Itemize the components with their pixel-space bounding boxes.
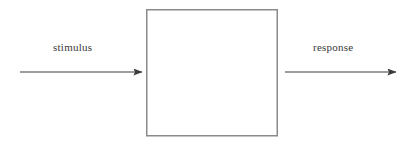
diagram-canvas: stimulus response: [0, 0, 411, 144]
black-box-rect: [147, 10, 278, 136]
diagram-graphics: [0, 0, 411, 144]
input-label: stimulus: [53, 42, 92, 53]
output-label: response: [313, 42, 354, 53]
